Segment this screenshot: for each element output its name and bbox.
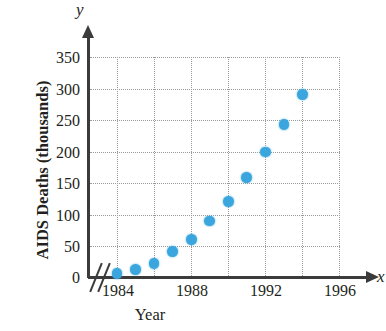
y-tick-label-100: 100 [34,208,80,224]
x-axis-line [88,276,371,279]
x-axis-arrow-icon [366,271,379,283]
data-point-1994 [297,89,308,100]
data-point-1989 [204,216,215,227]
data-point-1984 [112,268,123,279]
y-tick-label-50: 50 [34,239,80,255]
y-axis-arrow-icon [82,25,94,38]
gridline-vertical-1990 [228,57,229,278]
data-point-1988 [186,234,197,245]
y-tick-label-350: 350 [34,50,80,66]
x-tick-label-1992: 1992 [238,283,294,299]
y-tick-label-250: 250 [34,113,80,129]
data-point-1991 [241,172,252,183]
gridline-vertical-1996 [339,57,340,278]
gridline-vertical-1984 [117,57,118,278]
gridline-vertical-1986 [154,57,155,278]
data-point-1992 [260,147,271,158]
y-tick-label-300: 300 [34,82,80,98]
x-tick-label-1996: 1996 [312,283,368,299]
data-point-1993 [279,119,290,130]
y-tick-label-150: 150 [34,176,80,192]
plot-area: 350 300 250 200 150 100 50 0 1984 1988 1… [0,0,386,331]
y-tick-label-0: 0 [34,270,80,286]
y-axis-line [87,36,90,278]
gridline-vertical-1992 [265,57,266,278]
data-point-1986 [149,258,160,269]
aids-deaths-scatter-chart: y x AIDS Deaths (thousands) Year 350 [0,0,386,331]
data-point-1987 [167,246,178,257]
data-point-1985 [130,264,141,275]
data-point-1990 [223,196,234,207]
y-tick-label-200: 200 [34,145,80,161]
gridline-vertical-1988 [191,57,192,278]
x-tick-label-1984: 1984 [90,283,146,299]
x-tick-label-1988: 1988 [164,283,220,299]
